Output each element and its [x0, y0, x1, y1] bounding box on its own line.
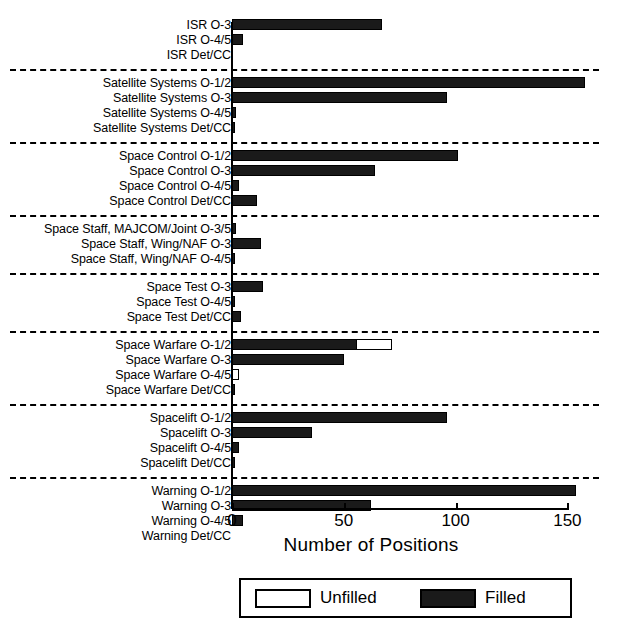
- x-axis-tick: [344, 503, 346, 509]
- y-axis-line: [231, 22, 233, 509]
- bar-row: Warning O-4/5: [0, 514, 617, 529]
- group-separator: [0, 136, 617, 149]
- x-axis-tick: [232, 503, 234, 509]
- bar-row-label: Space Warfare O-3: [125, 353, 231, 368]
- bar-row-label: Satellite Systems O-3: [113, 91, 231, 106]
- plot-area: ISR O-3ISR O-4/5ISR Det/CCSatellite Syst…: [0, 18, 617, 508]
- bar-group: Satellite Systems O-1/2Satellite Systems…: [0, 76, 617, 136]
- bar-row: Space Control Det/CC: [0, 194, 617, 209]
- x-axis-line: [232, 508, 569, 510]
- bar-group: Spacelift O-1/2Spacelift O-3Spacelift O-…: [0, 411, 617, 471]
- bar-filled: [232, 427, 312, 438]
- bar-row-label: Space Control O-3: [129, 164, 231, 179]
- bar-row-label: Spacelift O-4/5: [150, 441, 231, 456]
- bar-row-label: Spacelift O-3: [160, 426, 231, 441]
- legend-item-unfilled: Unfilled: [255, 588, 377, 608]
- bar-row-label: Space Staff, MAJCOM/Joint O-3/5: [44, 222, 231, 237]
- bar-filled: [232, 281, 263, 292]
- legend-swatch-filled: [420, 589, 476, 608]
- bar-row-label: Satellite Systems O-4/5: [103, 106, 231, 121]
- group-separator: [0, 471, 617, 484]
- bar-group: Space Staff, MAJCOM/Joint O-3/5Space Sta…: [0, 222, 617, 267]
- bar-row: Space Test O-4/5: [0, 295, 617, 310]
- legend-label-filled: Filled: [485, 588, 526, 608]
- bar-row: ISR O-3: [0, 18, 617, 33]
- bar-rows-container: ISR O-3ISR O-4/5ISR Det/CCSatellite Syst…: [0, 18, 617, 544]
- bar-row-label: Space Control O-4/5: [119, 179, 231, 194]
- x-axis-tick: [456, 503, 458, 509]
- bar-row-label: Space Test O-3: [146, 280, 231, 295]
- bar-row: ISR Det/CC: [0, 48, 617, 63]
- bar-row-label: Spacelift O-1/2: [150, 411, 231, 426]
- bar-row: Spacelift Det/CC: [0, 456, 617, 471]
- group-separator: [0, 209, 617, 222]
- bar-row-label: Satellite Systems Det/CC: [93, 121, 231, 136]
- bar-row-label: Satellite Systems O-1/2: [103, 76, 231, 91]
- bar-filled: [232, 412, 447, 423]
- x-axis-title-label: Number of Positions: [284, 534, 459, 556]
- bar-row: Space Control O-3: [0, 164, 617, 179]
- x-axis-title: Number of Positions: [0, 534, 617, 556]
- bar-row: Satellite Systems O-4/5: [0, 106, 617, 121]
- bar-filled: [232, 77, 585, 88]
- bar-filled: [232, 92, 447, 103]
- bar-row: Satellite Systems O-1/2: [0, 76, 617, 91]
- bar-filled: [232, 339, 357, 350]
- bar-row: Space Test O-3: [0, 280, 617, 295]
- bar-group: Space Control O-1/2Space Control O-3Spac…: [0, 149, 617, 209]
- bar-row-label: Space Warfare O-1/2: [115, 338, 231, 353]
- group-separator: [0, 325, 617, 338]
- bar-unfilled: [232, 369, 239, 380]
- bar-filled: [232, 442, 239, 453]
- bar-row: Spacelift O-4/5: [0, 441, 617, 456]
- bar-row: Warning O-3: [0, 499, 617, 514]
- group-separator: [0, 398, 617, 411]
- bar-row: Spacelift O-3: [0, 426, 617, 441]
- bar-filled: [232, 238, 261, 249]
- bar-filled: [232, 311, 241, 322]
- bar-row-label: Space Test Det/CC: [127, 310, 231, 325]
- bar-row: Spacelift O-1/2: [0, 411, 617, 426]
- bar-row: ISR O-4/5: [0, 33, 617, 48]
- bar-row: Warning O-1/2: [0, 484, 617, 499]
- bar-row-label: ISR O-4/5: [176, 33, 231, 48]
- bar-filled: [232, 195, 257, 206]
- legend-item-filled: Filled: [420, 588, 526, 608]
- bar-row-label: ISR Det/CC: [167, 48, 231, 63]
- x-axis-tick-label: 0: [227, 511, 236, 531]
- bar-row-label: Space Warfare Det/CC: [106, 383, 231, 398]
- x-axis-tick-label: 100: [441, 511, 469, 531]
- bar-row: Space Control O-1/2: [0, 149, 617, 164]
- bar-row-label: Space Test O-4/5: [136, 295, 231, 310]
- bar-row: Space Warfare O-3: [0, 353, 617, 368]
- bar-row: Space Warfare O-4/5: [0, 368, 617, 383]
- bar-row-label: Space Warfare O-4/5: [115, 368, 231, 383]
- bar-row-label: Space Control O-1/2: [119, 149, 231, 164]
- x-axis-tick: [567, 503, 569, 509]
- bar-row: Space Staff, Wing/NAF O-3: [0, 237, 617, 252]
- bar-row: Space Staff, MAJCOM/Joint O-3/5: [0, 222, 617, 237]
- bar-row-label: ISR O-3: [187, 18, 231, 33]
- bar-filled: [232, 150, 458, 161]
- bar-filled: [232, 180, 239, 191]
- bar-row-label: Warning O-1/2: [151, 484, 231, 499]
- bar-filled: [232, 485, 576, 496]
- bar-group: Space Test O-3Space Test O-4/5Space Test…: [0, 280, 617, 325]
- bar-group: ISR O-3ISR O-4/5ISR Det/CC: [0, 18, 617, 63]
- bar-filled: [232, 34, 243, 45]
- bar-row-label: Spacelift Det/CC: [140, 456, 231, 471]
- group-separator: [0, 63, 617, 76]
- bar-row: Space Control O-4/5: [0, 179, 617, 194]
- legend-swatch-unfilled: [255, 589, 311, 608]
- bar-row-label: Warning O-4/5: [151, 514, 231, 529]
- bar-filled: [232, 354, 344, 365]
- bar-row: Space Warfare Det/CC: [0, 383, 617, 398]
- legend-label-unfilled: Unfilled: [320, 588, 377, 608]
- bar-row-label: Space Staff, Wing/NAF O-4/5: [71, 252, 231, 267]
- bar-group: Space Warfare O-1/2Space Warfare O-3Spac…: [0, 338, 617, 398]
- bar-row: Satellite Systems Det/CC: [0, 121, 617, 136]
- bar-chart: ISR O-3ISR O-4/5ISR Det/CCSatellite Syst…: [0, 0, 617, 641]
- bar-unfilled: [356, 339, 392, 350]
- group-separator: [0, 267, 617, 280]
- bar-filled: [232, 19, 382, 30]
